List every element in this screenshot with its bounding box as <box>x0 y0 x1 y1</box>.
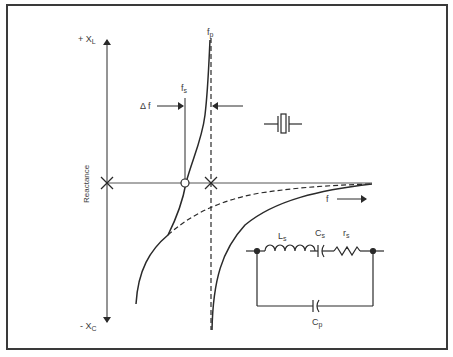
fs-label: fs <box>181 84 187 94</box>
resistor-icon <box>334 247 360 255</box>
series-capacitor-label: Cs <box>315 229 325 239</box>
inductor-icon <box>265 245 315 251</box>
inductor-label: Ls <box>278 232 287 242</box>
resistor-label: rs <box>343 229 350 239</box>
delta-f-label: Δ f <box>140 102 151 111</box>
y-axis-title: Reactance <box>82 165 91 203</box>
y-top-label: + XL <box>78 35 96 45</box>
frequency-label: f <box>326 195 329 204</box>
fs-circle-marker <box>181 179 189 187</box>
fp-label: fp <box>207 28 213 38</box>
reactance-diagram <box>0 0 453 357</box>
reactance-curve-high <box>212 184 372 330</box>
reactance-curve-low <box>136 40 210 304</box>
crystal-icon <box>264 114 302 133</box>
equivalent-circuit <box>246 245 384 312</box>
parallel-capacitor-label: Cp <box>312 318 322 328</box>
y-bottom-label: - XC <box>80 322 97 332</box>
